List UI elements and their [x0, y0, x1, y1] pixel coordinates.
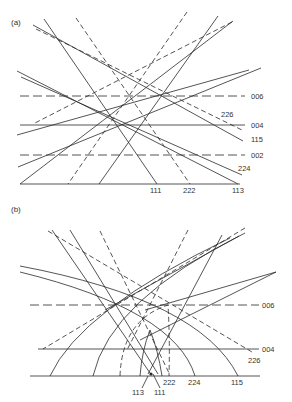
index-label: 113 [232, 186, 244, 195]
kikuchi-line [35, 22, 232, 123]
index-label: 002 [251, 151, 264, 160]
index-label: 111 [154, 388, 165, 397]
panel-label: (a) [11, 18, 21, 27]
index-label: 115 [231, 378, 243, 387]
index-label: 006 [262, 301, 275, 310]
kikuchi-line [36, 29, 242, 130]
index-label: 004 [251, 121, 264, 130]
kikuchi-line [99, 16, 218, 184]
kikuchi-line [100, 231, 170, 375]
kikuchi-line [20, 21, 233, 184]
kikuchi-line [33, 25, 243, 141]
index-label: 222 [163, 378, 176, 387]
panel-b: (b)006004226222224115113111 [11, 205, 276, 397]
index-label: 113 [132, 388, 144, 397]
kikuchi-line [76, 18, 190, 184]
kikuchi-line [70, 230, 158, 374]
panel-a: (a)006226004115002224111222113 [11, 12, 264, 195]
panel-label: (b) [11, 205, 21, 214]
index-label: 224 [188, 378, 201, 387]
index-label: 115 [251, 135, 263, 144]
kikuchi-arc-115 [20, 266, 238, 376]
leader-line [142, 376, 148, 388]
index-label: 224 [238, 164, 251, 173]
kikuchi-line [145, 272, 276, 310]
kikuchi-line [52, 230, 150, 373]
kikuchi-line [68, 12, 187, 184]
index-label: 222 [183, 186, 196, 195]
kikuchi-line-diagram: (a)006226004115002224111222113 (b)006004… [0, 0, 292, 402]
intersection-dot [149, 372, 152, 375]
kikuchi-arc-115-left [50, 238, 230, 376]
index-label: 226 [248, 356, 261, 365]
kikuchi-line [17, 71, 238, 184]
index-label: 111 [150, 186, 161, 195]
index-label: 006 [251, 92, 264, 101]
kikuchi-line [44, 19, 157, 184]
index-label: 226 [221, 110, 234, 119]
index-label: 004 [262, 345, 275, 354]
